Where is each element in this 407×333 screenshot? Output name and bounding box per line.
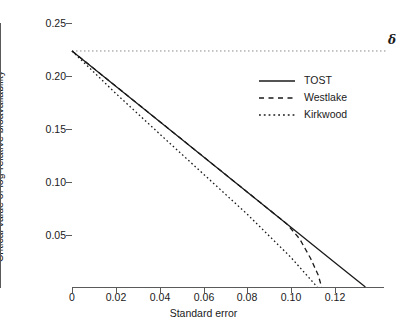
legend-swatch-dotted-icon xyxy=(258,110,296,120)
legend-item-westlake: Westlake xyxy=(258,89,370,106)
delta-annotation-label: δ xyxy=(388,34,396,46)
legend-label: Westlake xyxy=(296,92,347,103)
legend-item-tost: TOST xyxy=(258,72,370,89)
series-canvas xyxy=(0,0,407,333)
x-axis-title: Standard error xyxy=(0,308,407,319)
legend-swatch-dashed-icon xyxy=(258,93,296,103)
chart-figure: Critical value of log-relative bioavaila… xyxy=(0,0,407,333)
chart-legend: TOST Westlake Kirkwood xyxy=(258,72,370,123)
legend-item-kirkwood: Kirkwood xyxy=(258,106,370,123)
legend-swatch-solid-icon xyxy=(258,76,296,86)
legend-label: TOST xyxy=(296,75,332,86)
legend-label: Kirkwood xyxy=(296,109,347,120)
